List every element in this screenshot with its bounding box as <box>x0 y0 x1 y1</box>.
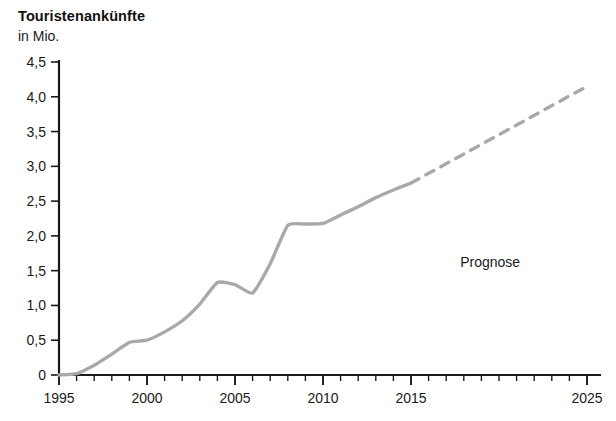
y-tick-label: 2,0 <box>27 228 47 244</box>
y-tick-label: 4,0 <box>27 89 47 105</box>
data-line-actual <box>59 183 411 375</box>
y-tick-label: 2,5 <box>27 193 47 209</box>
x-tick-label: 2000 <box>131 390 162 406</box>
y-tick-label: 3,5 <box>27 124 47 140</box>
y-tick-label: 3,0 <box>27 158 47 174</box>
y-tick-label: 1,5 <box>27 263 47 279</box>
x-tick-label: 2025 <box>571 390 602 406</box>
chart-container: Touristenankünfte in Mio. 00,51,01,52,02… <box>0 0 616 421</box>
chart-plot: 00,51,01,52,02,53,03,54,04,5 19952000200… <box>0 0 616 421</box>
y-axis-ticks: 00,51,01,52,02,53,03,54,04,5 <box>27 54 59 383</box>
forecast-annotation-label: Prognose <box>460 254 520 270</box>
x-tick-label: 2010 <box>307 390 338 406</box>
x-tick-label: 2005 <box>219 390 250 406</box>
y-tick-label: 0,5 <box>27 332 47 348</box>
x-tick-label: 1995 <box>43 390 74 406</box>
x-tick-label: 2015 <box>395 390 426 406</box>
y-tick-label: 4,5 <box>27 54 47 70</box>
data-line-forecast <box>411 86 587 183</box>
x-axis-ticks: 199520002005201020152025 <box>43 375 602 406</box>
y-tick-label: 0 <box>38 367 46 383</box>
y-tick-label: 1,0 <box>27 297 47 313</box>
